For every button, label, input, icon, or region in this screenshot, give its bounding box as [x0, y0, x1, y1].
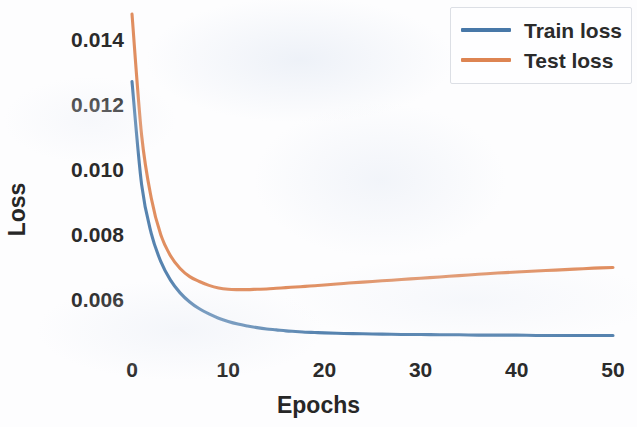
line-series-train-loss — [132, 82, 613, 336]
y-axis-title: Loss — [4, 165, 31, 255]
y-tick-label: 0.012 — [6, 93, 124, 117]
legend-item-test-loss: Test loss — [461, 45, 621, 75]
legend-label-test-loss: Test loss — [524, 50, 613, 71]
y-tick-label: 0.014 — [6, 28, 124, 52]
x-tick-label: 30 — [409, 358, 432, 382]
x-tick-label: 10 — [217, 358, 240, 382]
x-tick-label: 50 — [601, 358, 624, 382]
legend-swatch-train-loss — [461, 28, 511, 32]
x-tick-label: 20 — [313, 358, 336, 382]
x-tick-label: 0 — [126, 358, 138, 382]
y-tick-label: 0.006 — [6, 288, 124, 312]
chart-legend: Train loss Test loss — [450, 7, 632, 84]
loss-curve-chart: 0.0060.0080.0100.0120.014 01020304050 Lo… — [0, 0, 637, 427]
x-axis-tick-labels: 01020304050 — [0, 358, 637, 388]
x-tick-label: 40 — [505, 358, 528, 382]
legend-label-train-loss: Train loss — [524, 20, 622, 41]
x-axis-title: Epochs — [0, 392, 637, 419]
legend-swatch-test-loss — [461, 58, 511, 62]
legend-item-train-loss: Train loss — [461, 15, 621, 45]
